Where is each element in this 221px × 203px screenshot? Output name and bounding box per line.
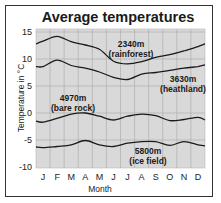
x-tick-label: D: [195, 172, 202, 182]
x-tick-label: A: [82, 172, 88, 182]
x-tick-label: S: [153, 172, 159, 182]
x-tick-label: N: [181, 172, 188, 182]
y-tick-label: 10: [22, 54, 32, 64]
svg-text:5800m: 5800m: [135, 146, 162, 156]
x-tick-label: O: [166, 172, 173, 182]
chart-title: Average temperatures: [42, 9, 195, 25]
x-tick-label: A: [139, 172, 145, 182]
y-tick-label: 5: [27, 81, 32, 91]
x-axis-ticks: JFMAMJJASOND: [41, 172, 202, 182]
series-label-ice-field: 5800m (ice field): [129, 146, 166, 166]
svg-text:2340m: 2340m: [118, 39, 145, 49]
svg-text:(heathland): (heathland): [160, 84, 206, 94]
x-tick-label: J: [111, 172, 116, 182]
line-chart: Average temperatures 151050-5-10 JFMAMJJ…: [0, 0, 221, 203]
y-tick-label: 15: [22, 27, 32, 37]
svg-text:4970m: 4970m: [60, 93, 87, 103]
x-tick-label: F: [54, 172, 60, 182]
x-axis-label: Month: [88, 184, 112, 194]
x-tick-label: M: [67, 172, 75, 182]
svg-text:(ice field): (ice field): [129, 156, 166, 166]
y-tick-label: -10: [19, 162, 32, 172]
x-tick-label: J: [41, 172, 46, 182]
y-tick-label: 0: [27, 108, 32, 118]
x-tick-label: M: [96, 172, 104, 182]
y-axis-label: Temperature in °C: [16, 64, 26, 133]
svg-text:3630m: 3630m: [170, 74, 197, 84]
y-tick-label: -5: [24, 135, 32, 145]
svg-text:(bare rock): (bare rock): [51, 103, 95, 113]
x-tick-label: J: [125, 172, 130, 182]
svg-text:(rainforest): (rainforest): [109, 49, 154, 59]
